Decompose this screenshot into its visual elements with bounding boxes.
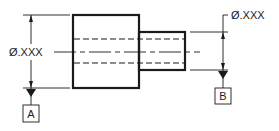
datum-a-triangle (26, 89, 36, 97)
left-arrow-top (29, 15, 33, 22)
small-cylinder-outline (139, 32, 185, 70)
datum-a-label: A (27, 108, 35, 120)
datum-b-label: B (219, 90, 226, 102)
datum-b-triangle (218, 71, 228, 79)
right-arrow-bottom (221, 63, 225, 70)
right-diameter-label: Ø.XXX (231, 9, 265, 21)
left-diameter-label: Ø.XXX (9, 46, 43, 58)
left-arrow-bottom (29, 81, 33, 88)
datum-diagram: A B Ø.XXX Ø.XXX (0, 0, 279, 131)
large-cylinder-outline (73, 15, 139, 88)
right-arrow-top (221, 32, 225, 39)
